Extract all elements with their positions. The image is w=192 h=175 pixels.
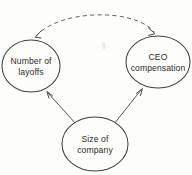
edge-layoffs-ceo-correlation [35,15,155,38]
node-ceo-ellipse[interactable] [126,36,190,88]
node-ceo-compensation[interactable]: CEO compensation [126,36,190,88]
node-layoffs-ellipse[interactable] [2,40,60,92]
edge-size-to-ceo [114,89,142,124]
node-layoffs-label-line2: layoffs [18,67,43,77]
node-company-size-label-line2: company [77,145,113,155]
solid-arrow-left-shaft [48,93,76,124]
causal-diagram: Number of layoffs CEO compensation Size … [0,0,192,175]
scan-artifact-speck [102,43,105,50]
node-ceo-label-line2: compensation [131,63,186,73]
node-ceo-label-line1: CEO [149,52,168,62]
node-company-size-label-line1: Size of [82,134,109,144]
node-layoffs-label-line1: Number of [10,56,52,66]
diagram-canvas: Number of layoffs CEO compensation Size … [0,0,192,175]
node-company-size-ellipse[interactable] [62,117,128,171]
solid-arrow-right-shaft [114,90,141,124]
arrowhead-to-layoffs [35,31,41,39]
dashed-arc-path [36,15,154,36]
node-number-of-layoffs[interactable]: Number of layoffs [2,40,60,92]
edge-size-to-layoffs [47,91,76,124]
node-size-of-company[interactable]: Size of company [62,117,128,171]
